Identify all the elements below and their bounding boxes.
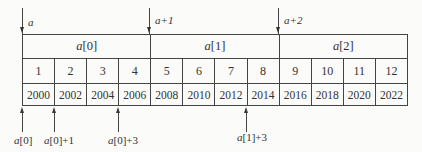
group-a0: a[0] [23,35,151,58]
address-cell: 2000 [23,84,55,106]
address-cell: 2008 [151,84,183,106]
address-cell: 2004 [87,84,119,106]
value-cell: 6 [183,59,215,83]
group-a1: a[1] [151,35,279,58]
address-cell: 2020 [344,84,376,106]
value-cell: 8 [248,59,280,83]
value-cell: 11 [344,59,376,83]
value-cell: 3 [87,59,119,83]
pointer-label-a-plus-2: a+2 [284,14,302,26]
value-cell: 9 [280,59,312,83]
row-array-groups: a[0] a[1] a[2] [23,35,407,59]
arrow-down-icon [276,27,280,33]
pointer-label-a0-plus-1: a[0]+1 [44,134,74,146]
value-cell: 2 [55,59,87,83]
pointer-label-a: a [28,16,34,28]
group-a2: a[2] [280,35,407,58]
address-cell: 2006 [119,84,151,106]
address-cell: 2012 [215,84,247,106]
value-cell: 4 [119,59,151,83]
arrow-down-icon [20,27,24,33]
value-cell: 5 [151,59,183,83]
value-cell: 1 [23,59,55,83]
value-cell: 10 [312,59,344,83]
pointer-label-a-plus-1: a+1 [155,14,173,26]
pointer-label-a0: a[0] [14,134,32,146]
value-cell: 7 [215,59,247,83]
row-values: 1 2 3 4 5 6 7 8 9 10 11 12 [23,59,407,84]
arrow-down-icon [147,27,151,33]
address-cell: 2016 [280,84,312,106]
pointer-label-a0-plus-3: a[0]+3 [108,134,138,146]
address-cell: 2022 [376,84,407,106]
address-cell: 2002 [55,84,87,106]
value-cell: 12 [376,59,407,83]
address-cell: 2018 [312,84,344,106]
address-cell: 2014 [248,84,280,106]
address-cell: 2010 [183,84,215,106]
pointer-label-a1-plus-3: a[1]+3 [237,131,267,143]
array-memory-grid: a[0] a[1] a[2] 1 2 3 4 5 6 7 8 9 10 11 1… [22,34,408,106]
row-addresses: 2000 2002 2004 2006 2008 2010 2012 2014 … [23,84,407,106]
